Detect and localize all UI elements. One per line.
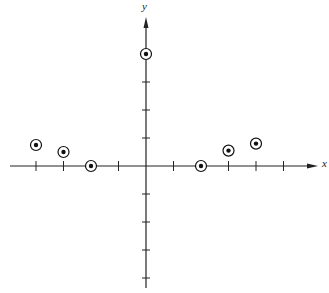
y-axis-arrow-icon [144,17,149,28]
data-point [58,147,69,158]
dot-marker-icon [144,52,148,56]
dot-marker-icon [226,148,230,152]
data-point [86,161,97,172]
dot-marker-icon [254,141,258,145]
axes [10,17,318,288]
data-point [31,140,42,151]
dot-marker-icon [89,164,93,168]
x-axis-label: x [322,157,327,169]
data-point [251,138,262,149]
data-point [141,49,152,60]
dot-marker-icon [34,143,38,147]
scatter-plot [0,0,329,293]
data-point [196,161,207,172]
dot-marker-icon [199,164,203,168]
x-axis-arrow-icon [307,164,318,169]
data-point [223,145,234,156]
dot-marker-icon [61,150,65,154]
y-axis-label: y [142,0,147,12]
tick-marks [36,82,284,278]
